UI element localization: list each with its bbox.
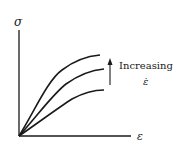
- strain-rate-symbol: ε̇: [143, 76, 148, 87]
- stress-strain-diagram: σ ε Increasing ε̇: [0, 0, 185, 150]
- arrow-up-icon: [108, 58, 113, 65]
- y-axis-label: σ: [14, 15, 23, 29]
- curve-high-rate: [19, 55, 100, 136]
- x-axis-label: ε: [137, 130, 143, 143]
- annotation-text: Increasing: [119, 60, 173, 71]
- curve-medium-rate: [19, 69, 104, 136]
